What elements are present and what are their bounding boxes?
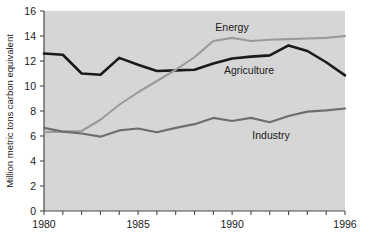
x-tick-label: 1996 — [333, 218, 357, 230]
x-tick-label: 1985 — [126, 218, 150, 230]
y-tick-label: 6 — [30, 130, 36, 142]
y-tick-label: 4 — [30, 155, 36, 167]
line-chart: 0246810121416 1980198519901996 EnergyAgr… — [0, 0, 373, 238]
y-tick-label: 8 — [30, 105, 36, 117]
y-tick-label: 2 — [30, 180, 36, 192]
y-tick-label: 16 — [24, 5, 36, 17]
y-tick-label: 10 — [24, 80, 36, 92]
x-axis: 1980198519901996 — [32, 211, 357, 230]
chart-root: 0246810121416 1980198519901996 EnergyAgr… — [0, 0, 373, 238]
series-label-agriculture: Agriculture — [224, 64, 274, 76]
plot-area-background — [44, 11, 345, 211]
series-label-energy: Energy — [215, 21, 249, 33]
y-tick-label: 14 — [24, 30, 36, 42]
y-axis: 0246810121416 — [24, 5, 44, 217]
x-tick-label: 1980 — [32, 218, 56, 230]
series-label-industry: Industry — [252, 129, 290, 141]
y-tick-label: 12 — [24, 55, 36, 67]
y-axis-title: Million metric tons carbon equivalent — [4, 34, 15, 188]
x-tick-label: 1990 — [220, 218, 244, 230]
y-tick-label: 0 — [30, 205, 36, 217]
